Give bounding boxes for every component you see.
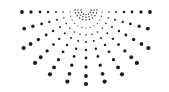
ray-dot (52, 43, 55, 46)
ray-dot (117, 43, 120, 46)
arc-dot (85, 17, 86, 18)
ray-dot (52, 30, 54, 32)
arc-dot (82, 16, 83, 17)
ray-dot (37, 38, 40, 41)
ray-dot (135, 61, 139, 65)
ray-dot (77, 40, 79, 42)
arc-dot (80, 9, 81, 10)
ray-dot (123, 11, 125, 13)
arc-dot (96, 12, 97, 13)
arc-dot (90, 9, 91, 10)
ray-dot (69, 11, 70, 12)
ray-dot (29, 10, 32, 13)
ray-dot (85, 34, 87, 36)
arc-dot (89, 19, 90, 20)
arc-dot (82, 19, 83, 20)
ray-dot (33, 61, 37, 65)
ray-dot (79, 33, 81, 35)
ray-dot (74, 31, 76, 33)
ray-dot (129, 55, 133, 59)
ray-dot (70, 63, 73, 66)
ray-dot (91, 33, 93, 35)
ray-dot (111, 26, 113, 28)
ray-dot (120, 72, 124, 76)
ray-dot (101, 11, 102, 12)
ray-dot (115, 11, 117, 13)
arc-dot (94, 15, 95, 16)
ray-dot (29, 42, 33, 46)
arc-dot (83, 13, 84, 14)
ray-dot (81, 27, 82, 28)
ray-dot (140, 42, 144, 46)
arc-dot (88, 16, 89, 17)
ray-dot (70, 37, 72, 39)
ray-dot (122, 21, 124, 23)
ray-dot (77, 25, 78, 26)
ray-dot (97, 55, 100, 58)
ray-dot (59, 26, 61, 28)
ray-dot (112, 58, 115, 61)
ray-dot (39, 11, 42, 14)
ray-dot (85, 27, 86, 28)
ray-dot (58, 38, 60, 40)
ray-dot (68, 72, 72, 76)
ray-dot (85, 49, 87, 51)
arc-dot (88, 13, 89, 14)
ray-dot (103, 79, 107, 83)
ray-dot (70, 16, 71, 17)
ray-dot (95, 48, 97, 50)
ray-dot (97, 23, 98, 24)
ray-dot (55, 11, 57, 13)
ray-dot (57, 58, 60, 61)
ray-dot (108, 11, 110, 13)
ray-dot (52, 66, 56, 70)
ray-dot (101, 27, 103, 29)
ray-dot (123, 49, 126, 52)
arc-dot (91, 14, 92, 15)
ray-dot (101, 16, 102, 17)
ray-dot (146, 27, 150, 31)
ray-dot (104, 44, 106, 46)
ray-dot (64, 32, 66, 34)
arc-dot (81, 12, 82, 13)
ray-dot (48, 72, 52, 76)
ray-dot (99, 63, 102, 66)
ray-dot (131, 11, 134, 14)
arc-dot (74, 9, 75, 10)
ray-dot (85, 41, 87, 43)
ray-dot (112, 38, 114, 40)
arc-dot (85, 14, 86, 15)
ray-dot (75, 48, 77, 50)
ray-dot (90, 27, 91, 28)
arc-dot (85, 19, 86, 20)
ray-dot (93, 25, 94, 26)
ray-dot (100, 37, 102, 39)
arc-dot (75, 12, 76, 13)
ray-dot (137, 25, 140, 28)
ray-dot (99, 19, 100, 20)
arc-dot (80, 14, 81, 15)
ray-dot (118, 30, 120, 32)
arc-dot (92, 17, 93, 18)
ray-dot (73, 55, 76, 58)
ray-dot (45, 34, 48, 37)
arc-dot (93, 9, 94, 10)
ray-dot (62, 11, 64, 13)
arc-dot (78, 12, 79, 13)
ray-dot (97, 31, 99, 33)
ray-dot (85, 57, 88, 60)
ray-dot (84, 82, 88, 86)
ray-dot (62, 50, 65, 53)
ray-dot (47, 11, 49, 13)
ray-dot (101, 72, 105, 76)
ray-dot (22, 27, 26, 31)
ray-dot (105, 23, 107, 25)
ray-dot (84, 74, 88, 78)
ray-dot (31, 25, 34, 28)
ray-dot (56, 19, 58, 21)
arc-dot (96, 9, 97, 10)
ray-dot (108, 50, 111, 53)
ray-dot (20, 10, 24, 14)
ray-dot (107, 17, 109, 19)
arc-dot (93, 12, 94, 13)
